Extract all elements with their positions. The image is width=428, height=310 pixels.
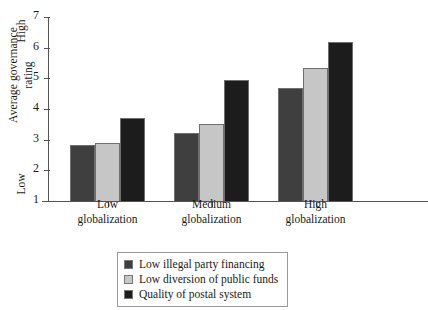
bar [224, 80, 249, 201]
y-tick-label: 5 [33, 69, 39, 83]
x-axis-group-label: Highglobalization [261, 197, 371, 227]
y-axis-high-label: High [15, 11, 29, 51]
legend-item: Low illegal party financing [124, 257, 278, 272]
bar [120, 118, 145, 201]
bar [278, 88, 303, 201]
legend-item-label: Quality of postal system [139, 287, 251, 302]
y-tick: 4 [44, 109, 50, 110]
bar [303, 68, 328, 201]
bar [328, 42, 353, 201]
y-tick-label: 3 [33, 131, 39, 145]
legend-swatch-icon [124, 290, 133, 299]
group-label-line2: globalization [53, 212, 163, 227]
y-tick-label: 7 [33, 8, 39, 22]
legend-item: Low diversion of public funds [124, 272, 278, 287]
x-axis-group-label: Lowglobalization [53, 197, 163, 227]
y-tick: 3 [44, 140, 50, 141]
bar [199, 124, 224, 201]
group-label-line1: Low [53, 197, 163, 212]
y-tick-label: 2 [33, 161, 39, 175]
group-label-line2: globalization [157, 212, 267, 227]
group-label-line1: High [261, 197, 371, 212]
y-tick: 6 [44, 48, 50, 49]
y-tick: 5 [44, 78, 50, 79]
group-label-line1: Medium [157, 197, 267, 212]
y-tick-label: 1 [33, 192, 39, 206]
y-tick: 7 [44, 17, 50, 18]
x-axis-group-label: Mediumglobalization [157, 197, 267, 227]
bar [95, 143, 120, 201]
y-tick: 2 [44, 170, 50, 171]
y-tick-label: 4 [33, 100, 39, 114]
y-tick-label: 6 [33, 39, 39, 53]
legend-swatch-icon [124, 275, 133, 284]
legend-swatch-icon [124, 260, 133, 269]
legend-item: Quality of postal system [124, 287, 278, 302]
bar [174, 133, 199, 201]
chart-legend: Low illegal party financingLow diversion… [117, 252, 288, 307]
bar [70, 145, 95, 201]
legend-item-label: Low diversion of public funds [139, 272, 278, 287]
y-axis-low-label: Low [15, 164, 29, 204]
group-label-line2: globalization [261, 212, 371, 227]
plot-area: 1234567 [48, 17, 370, 201]
y-tick: 1 [44, 201, 50, 202]
legend-item-label: Low illegal party financing [139, 257, 265, 272]
